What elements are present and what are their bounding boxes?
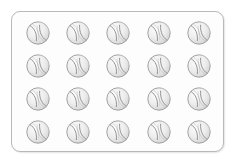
baseball-icon[interactable]: [106, 120, 130, 144]
ball-cell[interactable]: [58, 82, 98, 115]
ball-cell[interactable]: [98, 49, 138, 82]
ball-cell[interactable]: [139, 115, 179, 148]
ball-tray: [11, 11, 224, 152]
baseball-icon[interactable]: [106, 21, 130, 45]
ball-cell[interactable]: [98, 16, 138, 49]
ball-cell[interactable]: [139, 49, 179, 82]
baseball-icon[interactable]: [187, 21, 211, 45]
scene: [0, 0, 235, 164]
ball-cell[interactable]: [179, 16, 219, 49]
ball-cell[interactable]: [18, 49, 58, 82]
baseball-icon[interactable]: [187, 120, 211, 144]
ball-cell[interactable]: [98, 115, 138, 148]
ball-cell[interactable]: [98, 82, 138, 115]
ball-cell[interactable]: [179, 49, 219, 82]
ball-cell[interactable]: [58, 16, 98, 49]
baseball-icon[interactable]: [147, 54, 171, 78]
baseball-icon[interactable]: [147, 87, 171, 111]
ball-grid: [12, 12, 225, 153]
baseball-icon[interactable]: [66, 87, 90, 111]
ball-cell[interactable]: [179, 115, 219, 148]
baseball-icon[interactable]: [187, 87, 211, 111]
ball-cell[interactable]: [18, 115, 58, 148]
baseball-icon[interactable]: [66, 54, 90, 78]
ball-cell[interactable]: [139, 16, 179, 49]
baseball-icon[interactable]: [26, 120, 50, 144]
baseball-icon[interactable]: [26, 87, 50, 111]
baseball-icon[interactable]: [187, 54, 211, 78]
baseball-icon[interactable]: [26, 54, 50, 78]
ball-cell[interactable]: [139, 82, 179, 115]
ball-cell[interactable]: [18, 16, 58, 49]
ball-cell[interactable]: [58, 115, 98, 148]
ball-cell[interactable]: [179, 82, 219, 115]
ball-cell[interactable]: [58, 49, 98, 82]
baseball-icon[interactable]: [66, 21, 90, 45]
ball-cell[interactable]: [18, 82, 58, 115]
baseball-icon[interactable]: [106, 87, 130, 111]
baseball-icon[interactable]: [26, 21, 50, 45]
baseball-icon[interactable]: [106, 54, 130, 78]
baseball-icon[interactable]: [66, 120, 90, 144]
baseball-icon[interactable]: [147, 120, 171, 144]
baseball-icon[interactable]: [147, 21, 171, 45]
